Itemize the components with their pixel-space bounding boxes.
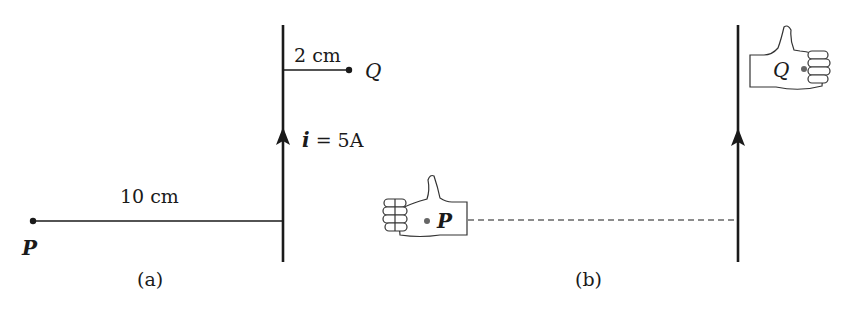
hand-p-dot: [424, 218, 430, 224]
point-p-dot: [30, 218, 36, 224]
current-label: i = 5A: [302, 128, 364, 152]
caption-a: (a): [137, 268, 163, 290]
p-distance-label: 10 cm: [120, 185, 179, 207]
panel-b: P Q (b): [383, 25, 830, 290]
q-distance-label: 2 cm: [294, 44, 341, 66]
hand-q-label: Q: [773, 58, 789, 82]
figure-canvas: 2 cm Q i = 5A 10 cm P (a): [0, 0, 855, 314]
hand-p-label: P: [436, 209, 453, 233]
caption-b: (b): [575, 268, 602, 290]
point-p-label: P: [21, 236, 38, 260]
current-variable: i: [302, 128, 310, 152]
point-q-label: Q: [365, 59, 381, 83]
hand-q-dot: [801, 66, 807, 72]
panel-a: 2 cm Q i = 5A 10 cm P (a): [21, 25, 381, 290]
current-value: = 5A: [310, 129, 364, 151]
hand-q-icon: [750, 26, 830, 89]
hand-p-icon: [383, 176, 467, 237]
point-q-dot: [346, 67, 352, 73]
